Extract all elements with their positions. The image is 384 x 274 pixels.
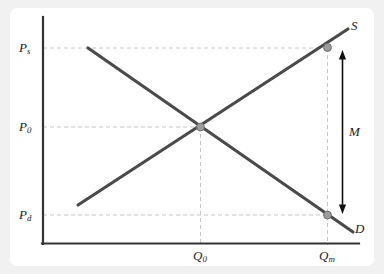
figure-canvas: Ps P0 Pd Q0 Qm S D M (0, 0, 384, 274)
axis-label-pd-base: P (19, 207, 27, 222)
marker-demand-price (324, 211, 332, 219)
marker-equilibrium (197, 123, 205, 131)
axis-label-qm-sub: m (328, 254, 334, 264)
axis-label-p0-sub: 0 (27, 125, 31, 135)
supply-demand-chart (0, 0, 384, 274)
axis-label-ps-base: P (19, 40, 27, 55)
marker-supply-price (324, 44, 332, 52)
annotation-label-margin: M (349, 125, 360, 138)
supply-curve (78, 29, 348, 205)
axis-label-qm: Qm (319, 249, 335, 264)
axis-label-q0-base: Q (193, 248, 202, 263)
axis-label-q0-sub: 0 (202, 254, 206, 264)
axis-label-qm-base: Q (319, 248, 328, 263)
axis-label-p0: P0 (19, 120, 31, 135)
margin-arrow (339, 50, 346, 214)
axis-label-ps-sub: s (27, 46, 30, 56)
demand-curve (88, 48, 353, 232)
axis-label-pd-sub: d (27, 213, 31, 223)
axis-label-p0-base: P (19, 119, 27, 134)
axis-label-pd: Pd (19, 208, 31, 223)
axis-label-q0: Q0 (193, 249, 207, 264)
curve-label-supply: S (351, 19, 358, 32)
curve-label-demand: D (355, 222, 364, 235)
axis-label-ps: Ps (19, 41, 30, 56)
